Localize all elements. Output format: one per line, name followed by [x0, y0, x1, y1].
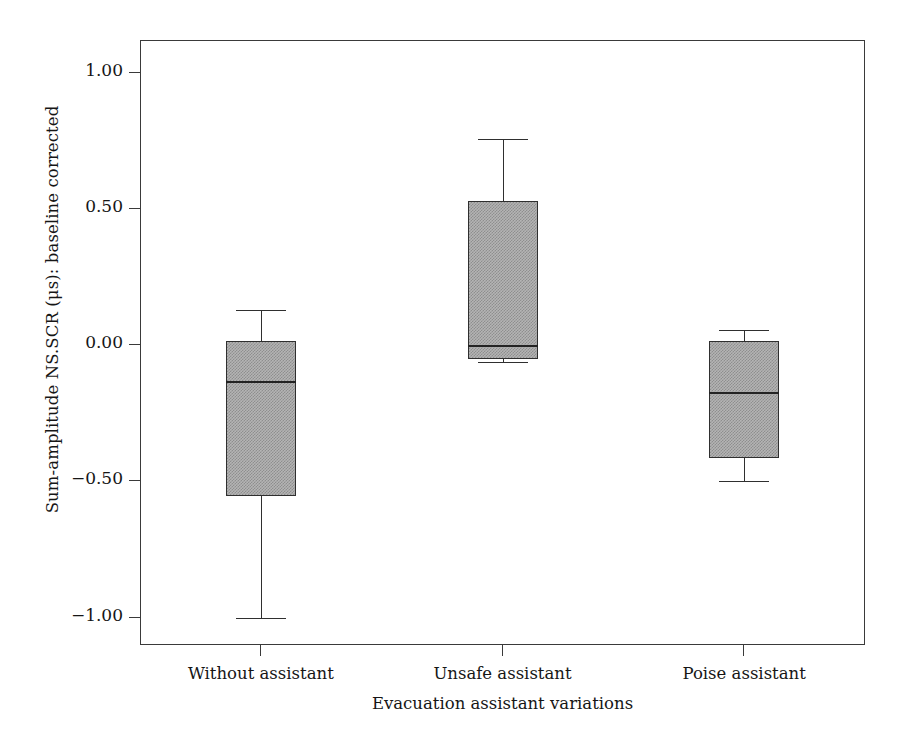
lower-whisker-cap [478, 362, 528, 363]
y-tick-mark [129, 480, 140, 481]
iqr-box [226, 341, 296, 496]
x-tick-label: Without assistant [131, 664, 391, 683]
upper-whisker-stem [744, 330, 745, 341]
y-tick-mark [129, 344, 140, 345]
x-tick-mark [743, 645, 744, 656]
x-tick-label: Poise assistant [614, 664, 874, 683]
median-line [709, 392, 779, 394]
lower-whisker-cap [236, 618, 286, 619]
iqr-box [709, 341, 779, 458]
upper-whisker-cap [478, 139, 528, 140]
x-axis-title: Evacuation assistant variations [140, 694, 865, 713]
y-tick-label: 0.00 [85, 332, 123, 352]
x-tick-label: Unsafe assistant [373, 664, 633, 683]
upper-whisker-stem [261, 310, 262, 341]
median-line [468, 345, 538, 347]
lower-whisker-stem [744, 458, 745, 481]
median-line [226, 381, 296, 383]
y-tick-mark [129, 617, 140, 618]
y-tick-label: 0.50 [85, 196, 123, 216]
upper-whisker-stem [503, 139, 504, 200]
lower-whisker-cap [719, 481, 769, 482]
x-tick-mark [502, 645, 503, 656]
x-tick-mark [260, 645, 261, 656]
lower-whisker-stem [261, 496, 262, 617]
upper-whisker-cap [719, 330, 769, 331]
y-tick-label: −0.50 [71, 468, 123, 488]
upper-whisker-cap [236, 310, 286, 311]
y-tick-label: 1.00 [85, 60, 123, 80]
y-tick-mark [129, 208, 140, 209]
y-axis-title: Sum-amplitude NS.SCR (μs): baseline corr… [43, 0, 62, 620]
y-tick-label: −1.00 [71, 605, 123, 625]
box-plot-figure: Sum-amplitude NS.SCR (μs): baseline corr… [0, 0, 906, 737]
iqr-box [468, 201, 538, 359]
y-tick-mark [129, 72, 140, 73]
